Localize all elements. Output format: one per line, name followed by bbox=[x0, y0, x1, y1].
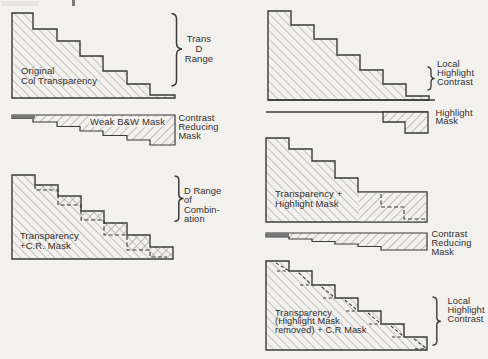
scan-smudge bbox=[2, 1, 38, 6]
transparency-cr-mask-label: Transparency +C.R. Mask bbox=[20, 231, 79, 252]
highlight-mask-shape bbox=[266, 112, 428, 133]
weak-bw-mask-label: Weak B&W Mask bbox=[89, 117, 166, 128]
diagram-canvas bbox=[0, 0, 488, 359]
local-highlight-contrast-bottom-label: Local Highlight Contrast bbox=[448, 297, 485, 325]
label-line: removed) + C.R Mask bbox=[275, 326, 367, 335]
highlight-mask-label: Highlight Mask bbox=[436, 109, 473, 127]
wedge-dense-tip bbox=[12, 115, 35, 119]
contrast-reducing-mask-right-label: Contrast Reducing Mask bbox=[432, 230, 472, 257]
label-line: Contrast bbox=[448, 315, 485, 324]
transparency-highlight-mask-label: Transparency + Highlight Mask bbox=[275, 189, 342, 209]
label-line: Mask bbox=[432, 248, 472, 257]
label-line: +C.R. Mask bbox=[20, 241, 79, 252]
local-highlight-contrast-brace-bottom bbox=[433, 297, 441, 345]
transparency-removed-cr-mask-label: Transparency (Highlight Mask removed) + … bbox=[275, 309, 367, 335]
wedge-dense-tip-right bbox=[266, 233, 289, 237]
local-highlight-contrast-brace-top bbox=[428, 67, 435, 90]
label-line: Mask bbox=[436, 117, 473, 126]
trans-d-range-brace bbox=[172, 14, 183, 87]
label-line: Weak B&W Mask bbox=[89, 117, 166, 128]
highlight-fill-region bbox=[359, 193, 426, 221]
d-range-combination-label: D Range of Combin- ation bbox=[184, 187, 221, 225]
d-range-combination-brace bbox=[175, 176, 184, 221]
label-line: Mask bbox=[179, 132, 219, 141]
contrast-reducing-mask-left-label: Contrast Reducing Mask bbox=[179, 114, 219, 141]
scan-tick bbox=[72, 0, 75, 6]
label-line: Highlight Mask bbox=[275, 199, 342, 209]
transparency-removed-cr-mask-shape bbox=[266, 261, 427, 350]
label-line: Col Transparency bbox=[21, 76, 97, 87]
local-highlight-contrast-top-label: Local Highlight Contrast bbox=[437, 60, 474, 87]
transparency-highlight-mask-shape bbox=[266, 138, 427, 222]
transparency-top-right-shape bbox=[268, 11, 429, 100]
trans-d-range-label: Trans D Range bbox=[183, 34, 215, 65]
original-transparency-label: Original Col Transparency bbox=[21, 66, 97, 87]
masking-diagram: Original Col Transparency Trans D Range … bbox=[0, 0, 488, 359]
label-line: Range bbox=[183, 54, 215, 64]
label-line: ation bbox=[184, 215, 221, 225]
contrast-reducing-mask-right-shape bbox=[266, 233, 427, 250]
label-line: Contrast bbox=[437, 78, 474, 87]
